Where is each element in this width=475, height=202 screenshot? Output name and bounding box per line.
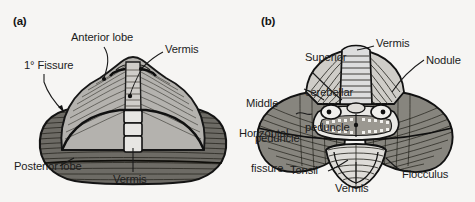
label-line-superior: Superior (305, 52, 353, 64)
panel-b-id: (b) (261, 15, 275, 27)
label-horizontal-fissure: Horizontal fissure (239, 104, 288, 198)
label-line-cerebellar: cerebellar (305, 87, 353, 99)
label-line-peduncle: peduncle (305, 122, 353, 134)
right-flocculus-dot (381, 110, 386, 115)
label-vermis-bottom-a: Vermis (113, 174, 147, 186)
label-primary-fissure: 1° Fissure (24, 60, 73, 72)
cerebellum-figure: (a) Anterior lobe Vermis 1° Fissure Post… (0, 0, 475, 202)
label-vermis-bottom-b: Vermis (335, 183, 369, 195)
label-tonsil: Tonsil (290, 165, 318, 177)
label-anterior-lobe: Anterior lobe (71, 32, 133, 44)
label-superior-cerebellar-peduncle: Superior cerebellar peduncle (305, 28, 353, 158)
label-vermis-top-b: Vermis (376, 38, 410, 50)
label-nodule: Nodule (426, 55, 461, 67)
leader-vermis-top (142, 52, 163, 68)
posterior-vermis-shape (124, 110, 142, 152)
label-line-horizontal: Horizontal (239, 128, 288, 140)
label-posterior-lobe: Posterior lobe (14, 161, 82, 173)
label-vermis-top-a: Vermis (165, 44, 199, 56)
anchor-vermis-center-b (354, 123, 358, 127)
panel-a-id: (a) (13, 15, 26, 27)
label-flocculus: Flocculus (402, 169, 448, 181)
label-line-fissure: fissure (251, 163, 288, 175)
anchor-anterior-lobe (102, 77, 106, 81)
